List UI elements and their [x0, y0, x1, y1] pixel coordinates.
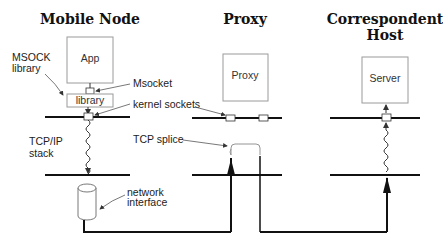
network-interface-leader	[100, 195, 125, 209]
msock-library-leader	[45, 74, 63, 95]
kernel-sockets-leader-proxy	[195, 107, 225, 115]
ch-kernel-socket	[382, 114, 391, 121]
msocket-label: Msocket	[133, 77, 172, 89]
ch-inbound-arrow	[383, 177, 391, 193]
network-interface-label-line2: interface	[127, 196, 167, 208]
correspondent-host-column: Server	[330, 57, 420, 232]
server-label: Server	[370, 72, 401, 84]
ch-tcp-stack-wave	[384, 130, 388, 172]
kernel-sockets-label: kernel sockets	[133, 98, 200, 110]
msock-architecture-diagram: Mobile Node Proxy Correspondent Host App…	[0, 0, 443, 246]
tcp-ip-stack-label-line1: TCP/IP	[29, 135, 63, 147]
mobile-node-column: App library	[45, 37, 130, 220]
title-host: Host	[367, 27, 404, 43]
tcp-ip-stack-label-line2: stack	[29, 147, 54, 159]
mn-kernel-socket	[84, 113, 93, 120]
tcp-splice-leader	[183, 140, 227, 146]
proxy-label: Proxy	[232, 69, 260, 81]
title-proxy: Proxy	[223, 11, 268, 27]
msocket-leader	[96, 84, 130, 91]
title-correspondent: Correspondent	[327, 11, 443, 27]
app-label: App	[81, 52, 100, 64]
tcp-splice-shape	[231, 144, 260, 155]
tcp-splice-label: TCP splice	[133, 133, 184, 145]
library-label: library	[76, 94, 105, 106]
proxy-kernel-socket-1	[226, 115, 235, 121]
msock-library-label-line2: library	[12, 62, 41, 74]
mn-to-proxy-path	[84, 220, 231, 232]
mn-tcp-stack-wave	[86, 120, 90, 174]
proxy-inbound-arrow	[227, 159, 235, 175]
network-interface-cylinder	[78, 184, 96, 220]
title-mobile-node: Mobile Node	[40, 11, 140, 27]
proxy-kernel-socket-2	[259, 115, 268, 121]
